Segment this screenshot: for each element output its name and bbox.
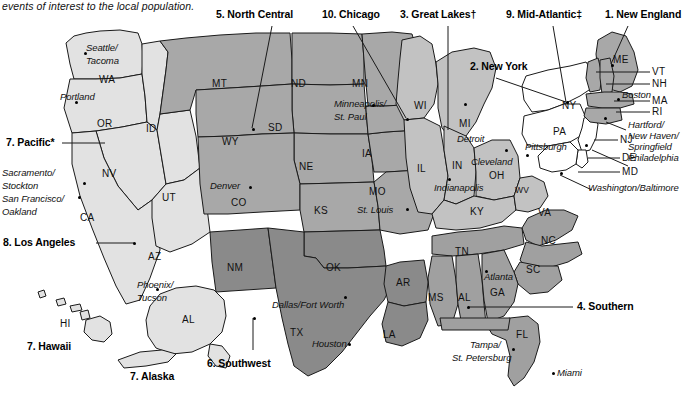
dot-dallas (344, 296, 347, 299)
dot-indianapolis (448, 178, 451, 181)
state-MS (428, 256, 458, 326)
dot-miami (552, 372, 555, 375)
abbr-AR: AR (396, 277, 411, 288)
abbr-AZ: AZ (148, 251, 161, 262)
dot-new-york (566, 101, 569, 104)
abbr-AL: AL (458, 292, 471, 303)
state-NM (210, 228, 276, 292)
dot-boston (617, 98, 620, 101)
state-GA (482, 250, 518, 322)
dot-st-louis (406, 208, 409, 211)
abbr-TX: TX (290, 327, 303, 338)
abbr-LA: LA (383, 329, 396, 340)
callout-pacific[interactable]: 7. Pacific* (6, 136, 55, 148)
abbr-KY: KY (470, 206, 484, 217)
abbr-NH: NH (652, 78, 667, 89)
abbr-VT: VT (652, 66, 665, 77)
abbr-HI: HI (60, 318, 71, 329)
callout-southwest[interactable]: 6. Southwest (207, 357, 271, 369)
dot-north-central (252, 128, 255, 131)
abbr-IL: IL (417, 163, 426, 174)
callout-hawaii[interactable]: 7. Hawaii (27, 340, 71, 352)
abbr-FL: FL (516, 329, 528, 340)
abbr-NV: NV (102, 168, 117, 179)
dot-pittsburgh (526, 154, 529, 157)
callout-new-england[interactable]: 1. New England (605, 8, 681, 20)
dot-southern (467, 306, 470, 309)
city-washington-baltimore: Washington/Baltimore (588, 183, 679, 194)
dot-seattle (84, 52, 87, 55)
abbr-OH: OH (489, 170, 505, 181)
city-philadelphia: Philadelphia (628, 153, 679, 164)
abbr-MN: MN (352, 78, 368, 89)
abbr-ME: ME (613, 54, 629, 65)
abbr-NY: NY (562, 100, 577, 111)
abbr-CA: CA (80, 212, 95, 223)
city-houston: Houston (312, 339, 347, 350)
abbr-IA: IA (362, 148, 372, 159)
region-new-england[interactable] (584, 32, 638, 124)
callout-los-angeles[interactable]: 8. Los Angeles (3, 236, 75, 248)
callout-chicago[interactable]: 10. Chicago (322, 8, 380, 20)
state-NY (522, 62, 594, 112)
abbr-ID: ID (146, 123, 157, 134)
city-tampa-line2: St. Petersburg (452, 353, 511, 364)
city-sanfrancisco-line1: San Francisco/ (2, 194, 64, 205)
abbr-PA: PA (553, 126, 566, 137)
callout-new-york[interactable]: 2. New York (470, 60, 527, 72)
state-CT-RI (584, 108, 622, 124)
abbr-WI: WI (414, 100, 427, 111)
abbr-NE: NE (299, 161, 314, 172)
city-dallas: Dallas/Fort Worth (272, 300, 344, 311)
dot-houston (348, 343, 351, 346)
callout-north-central[interactable]: 5. North Central (216, 8, 293, 20)
abbr-OK: OK (326, 262, 341, 273)
abbr-GA: GA (490, 287, 505, 298)
callout-alaska[interactable]: 7. Alaska (130, 370, 174, 382)
city-hartford-line1: Hartford/ (628, 120, 664, 131)
abbr-KS: KS (314, 205, 328, 216)
island-molokai (70, 304, 82, 312)
region-hawaii[interactable] (38, 290, 112, 342)
dot-tampa (512, 348, 515, 351)
abbr-IN: IN (452, 160, 463, 171)
dot-chicago (406, 118, 409, 121)
abbr-MO: MO (369, 186, 386, 197)
abbr-UT: UT (162, 192, 176, 203)
abbr-CO: CO (231, 197, 247, 208)
dot-atlanta (485, 270, 488, 273)
abbr-MA: MA (652, 95, 668, 106)
abbr-SC: SC (526, 264, 541, 275)
dot-sanfrancisco (78, 196, 81, 199)
city-hartford-line2: New Haven/ (628, 131, 679, 142)
abbr-AK: AL (182, 314, 195, 325)
city-st-louis: St. Louis (357, 205, 393, 216)
city-pittsburgh: Pittsburgh (525, 142, 567, 153)
dot-hartford (604, 117, 607, 120)
callout-mid-atlantic[interactable]: 9. Mid-Atlantic‡ (506, 8, 582, 20)
city-tampa-line1: Tampa/ (470, 340, 501, 351)
city-cleveland: Cleveland (471, 157, 512, 168)
state-FL-panhandle (440, 318, 510, 330)
abbr-MI: MI (459, 118, 471, 129)
abbr-MD: MD (622, 166, 638, 177)
dot-minneapolis (372, 104, 375, 107)
city-minneapolis-line2: St. Paul (334, 112, 366, 123)
city-miami: Miami (557, 368, 582, 379)
dot-portland (75, 101, 78, 104)
dot-cleveland (505, 149, 508, 152)
abbr-MS: MS (428, 292, 444, 303)
dot-philadelphia (585, 144, 588, 147)
dot-los-angeles (133, 242, 136, 245)
dot-southwest (253, 317, 256, 320)
callout-great-lakes[interactable]: 3. Great Lakes† (400, 8, 476, 20)
city-sacramento-line1: Sacramento/ (2, 168, 55, 179)
dot-denver (249, 186, 252, 189)
island-kauai (38, 290, 46, 298)
city-boston: Boston (622, 90, 651, 101)
abbr-WV: WV (515, 185, 529, 195)
city-seattle-line1: Seattle/ (86, 43, 117, 54)
island-oahu (56, 298, 66, 306)
map-figure: events of interest to the local populati… (0, 0, 696, 402)
callout-southern[interactable]: 4. Southern (577, 300, 634, 312)
